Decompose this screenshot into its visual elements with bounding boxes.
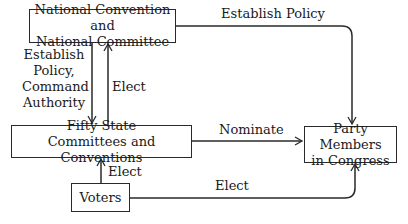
node-national-line1: National Convention and: [30, 2, 175, 34]
edge-label-line: Command: [22, 79, 86, 95]
node-voters: Voters: [71, 183, 130, 212]
edge-label-line: Establish: [22, 47, 86, 63]
node-state-committees: Fifty State Committees and Conventions: [11, 125, 192, 158]
edge-label-line: Policy,: [22, 63, 86, 79]
node-congress-line1: Party Members: [305, 121, 396, 153]
edge-national-to-congress: [175, 26, 352, 124]
edge-label-elect-voters-congress: Elect: [215, 178, 249, 194]
edge-label-elect-up: Elect: [112, 79, 146, 95]
node-congress-line2: in Congress: [311, 153, 389, 169]
node-voters-label: Voters: [80, 190, 122, 206]
node-national-convention: National Convention and National Committ…: [29, 9, 176, 43]
edge-label-establish-policy-top: Establish Policy: [221, 6, 325, 22]
node-state-line1: Fifty State: [67, 118, 137, 134]
edge-label-establish-policy-command: Establish Policy, Command Authority: [22, 47, 86, 111]
edge-label-nominate: Nominate: [219, 122, 284, 138]
node-congress: Party Members in Congress: [304, 126, 397, 163]
edge-label-elect-voters-state: Elect: [108, 164, 142, 180]
node-state-line2: Committees and Conventions: [12, 134, 191, 166]
edge-label-line: Authority: [22, 95, 86, 111]
